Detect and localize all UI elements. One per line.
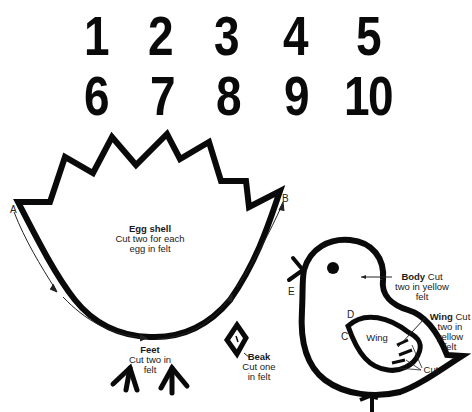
point-a-label: A [10, 204, 17, 215]
wing-inner-label: Wing [362, 333, 392, 343]
pattern-artwork [0, 0, 472, 412]
cut-label: Cut [421, 365, 441, 375]
feet-caption: Feet Cut two in felt [120, 345, 180, 375]
point-d-label: D [347, 309, 354, 320]
beak-caption: Beak Cut one in felt [238, 352, 280, 382]
wing-caption: Wing Cut two in yellow felt [428, 312, 472, 352]
body-caption: Body Cut two in yellow felt [394, 272, 450, 302]
point-b-label: B [282, 193, 289, 204]
body-line2: felt [394, 292, 450, 302]
point-e-label: E [288, 286, 295, 297]
egg-shell-caption: Egg shell Cut two for each egg in felt [100, 224, 200, 254]
egg-shell-line2: egg in felt [100, 244, 200, 254]
wing-shape [348, 317, 425, 370]
beak-line2: in felt [238, 372, 280, 382]
point-c-label: C [341, 331, 348, 342]
feet-line2: felt [120, 365, 180, 375]
wing-line3: felt [428, 342, 472, 352]
